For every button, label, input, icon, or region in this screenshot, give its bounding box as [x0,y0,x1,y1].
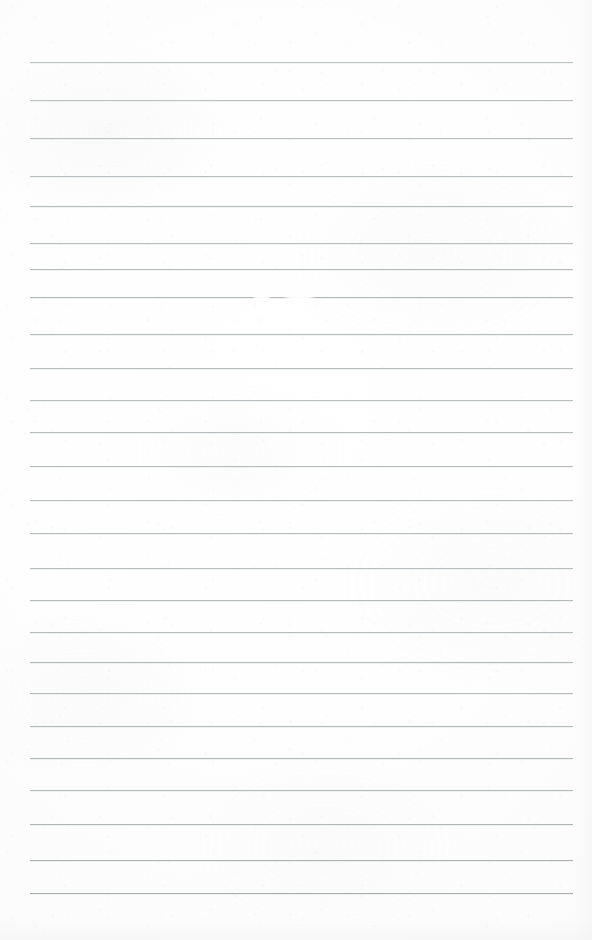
rule-line [30,693,573,694]
rule-line [30,568,573,569]
rule-line [30,368,573,369]
rule-line [30,100,573,101]
rule-line [30,600,573,601]
rule-line [30,790,573,791]
rule-line [30,62,573,63]
right-edge-shading [574,0,592,940]
line-break-patch-secondary [252,296,272,299]
bottom-edge-shading [0,918,592,940]
rule-line [30,334,573,335]
rule-line [30,632,573,633]
rule-line [30,400,573,401]
rule-line [30,500,573,501]
line-break-patch [282,296,316,299]
rule-line [30,432,573,433]
scanned-page [0,0,592,940]
rule-line [30,138,573,139]
rule-line [30,466,573,467]
rule-line [30,893,573,894]
rule-line [30,206,573,207]
rule-line [30,662,573,663]
rule-line [30,860,573,861]
ruled-lines-group [0,0,592,940]
rule-line [30,176,573,177]
rule-line [30,269,573,270]
rule-line [30,758,573,759]
rule-line [30,533,573,534]
rule-line [30,243,573,244]
rule-line [30,726,573,727]
rule-line [30,824,573,825]
